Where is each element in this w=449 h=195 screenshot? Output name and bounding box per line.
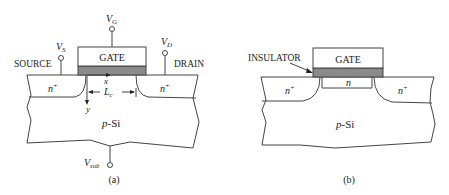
substrate-label-b: p-Si [335, 118, 354, 130]
caption-b: (b) [343, 174, 355, 186]
insulator-pointer-line [290, 63, 309, 71]
caption-a: (a) [108, 174, 119, 186]
gate-insulator-b [313, 68, 383, 77]
figure-b: GATE INSULATOR n+ n n+ p-Si (b) [248, 48, 435, 186]
insulator-label: INSULATOR [248, 53, 301, 63]
mosfet-diagram: GATE VG VS SOURCE VD DRAIN n+ n+ x y Lc [0, 0, 449, 195]
gate-insulator-a [78, 66, 146, 75]
figure-a: GATE VG VS SOURCE VD DRAIN n+ n+ x y Lc [14, 13, 204, 186]
lc-arrow-right-icon [130, 90, 135, 94]
b-drain-nplus-label: n+ [398, 84, 408, 96]
vg-terminal-icon [110, 27, 115, 32]
substrate-label-a: p-Si [101, 117, 120, 129]
source-nplus-label: n+ [48, 82, 58, 94]
vsub-terminal-icon [108, 163, 113, 168]
x-axis-label: x [103, 76, 108, 86]
b-source-nplus-label: n+ [285, 84, 295, 96]
drain-nplus-label: n+ [160, 82, 170, 94]
drain-label: DRAIN [174, 59, 204, 69]
y-axis-label: y [85, 104, 90, 114]
vsub-label: Vsub [84, 157, 100, 169]
insulator-arrow-icon [306, 68, 313, 73]
lc-label: Lc [103, 86, 114, 99]
gate-label-a: GATE [99, 52, 125, 63]
lc-arrow-left-icon [88, 90, 93, 94]
vd-label: VD [161, 36, 172, 49]
vs-terminal-icon [59, 56, 64, 61]
vd-terminal-icon [163, 51, 168, 56]
source-label: SOURCE [14, 59, 52, 69]
gate-label-b: GATE [335, 54, 361, 65]
b-n-label: n [346, 77, 351, 88]
vs-label: VS [56, 41, 66, 54]
vg-label: VG [106, 13, 117, 26]
